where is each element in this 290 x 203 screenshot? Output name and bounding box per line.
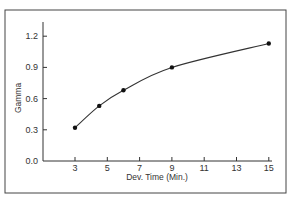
chart-frame: [5, 10, 286, 193]
data-point-marker: [121, 88, 125, 92]
x-tick-label: 11: [200, 163, 209, 173]
data-point-marker: [73, 126, 77, 130]
chart-svg: 0.00.30.60.91.2 3579111315 Dev. Time (Mi…: [0, 0, 290, 203]
y-tick-label: 0.0: [25, 156, 38, 166]
data-point-marker: [267, 41, 271, 45]
data-line: [75, 43, 269, 127]
y-axis-label: Gamma: [13, 83, 23, 114]
x-ticks: 3579111315: [72, 157, 273, 173]
x-tick-label: 5: [105, 163, 110, 173]
data-point-marker: [170, 65, 174, 69]
y-tick-label: 0.3: [25, 125, 38, 135]
x-axis-label: Dev. Time (Min.): [126, 172, 188, 182]
y-ticks: 0.00.30.60.91.2: [25, 31, 47, 166]
y-tick-label: 0.9: [25, 62, 38, 72]
x-tick-label: 13: [231, 163, 241, 173]
data-point-marker: [97, 104, 101, 108]
y-tick-label: 0.6: [25, 94, 38, 104]
x-tick-label: 3: [72, 163, 77, 173]
y-tick-label: 1.2: [25, 31, 38, 41]
x-tick-label: 15: [264, 163, 274, 173]
data-points: [73, 41, 271, 130]
